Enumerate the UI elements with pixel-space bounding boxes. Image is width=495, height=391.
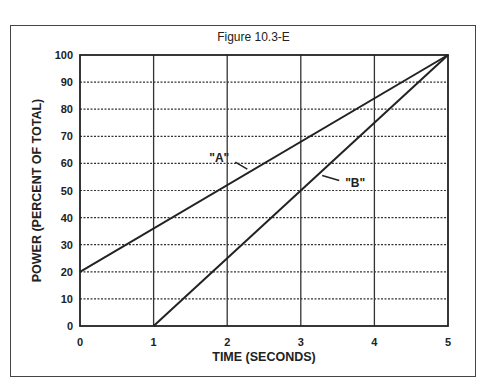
annotation-arrow-b: [322, 176, 339, 181]
x-tick-label: 1: [151, 336, 157, 348]
line-chart: 0102030405060708090100012345TIME (SECOND…: [0, 0, 495, 391]
x-tick-label: 5: [445, 336, 451, 348]
x-axis-title: TIME (SECONDS): [212, 350, 315, 364]
y-tick-label: 90: [61, 76, 73, 88]
x-tick-label: 0: [77, 336, 83, 348]
x-tick-label: 3: [298, 336, 304, 348]
y-tick-label: 40: [61, 212, 73, 224]
y-tick-label: 0: [67, 320, 73, 332]
y-axis-title: POWER (PERCENT OF TOTAL): [30, 99, 44, 283]
y-tick-label: 10: [61, 293, 73, 305]
x-tick-label: 4: [371, 336, 378, 348]
y-tick-label: 50: [61, 185, 73, 197]
y-tick-label: 20: [61, 266, 73, 278]
series-a-label: "A": [209, 151, 229, 165]
y-tick-label: 70: [61, 130, 73, 142]
y-tick-label: 60: [61, 157, 73, 169]
y-tick-label: 80: [61, 103, 73, 115]
x-tick-label: 2: [224, 336, 230, 348]
y-tick-label: 30: [61, 239, 73, 251]
series-b-label: "B": [345, 176, 365, 190]
y-tick-label: 100: [55, 49, 73, 61]
